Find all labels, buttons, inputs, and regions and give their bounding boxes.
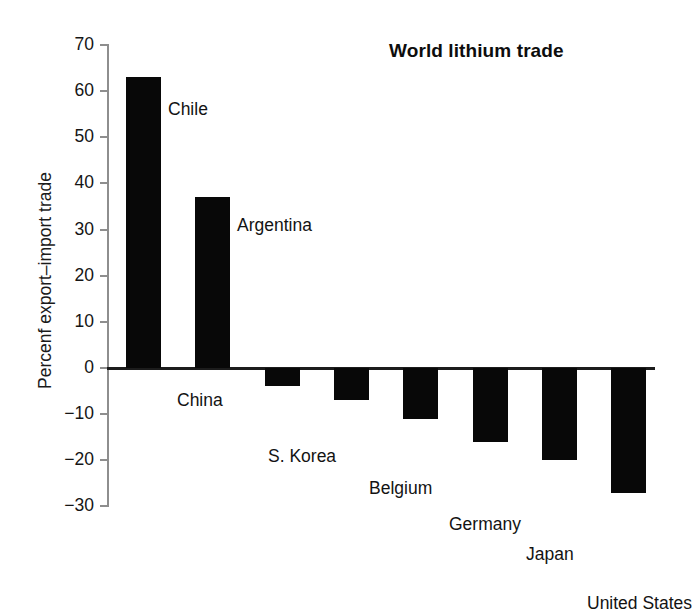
bar-united-states[interactable]	[611, 368, 646, 493]
bar-label-china: China	[177, 390, 223, 411]
bar-s-korea[interactable]	[334, 368, 369, 400]
y-tick-60	[100, 90, 109, 92]
y-tick-70	[100, 44, 109, 46]
y-tick-label-wrap: 30	[44, 221, 94, 239]
bar-japan[interactable]	[542, 368, 577, 460]
y-tick-label-wrap: −30	[44, 497, 94, 515]
y-tick-label: 20	[48, 267, 94, 285]
y-tick-label: −30	[48, 497, 94, 515]
y-tick-label-wrap: 10	[44, 313, 94, 331]
y-tick-label-wrap: −20	[44, 451, 94, 469]
y-tick-label: 50	[48, 128, 94, 146]
y-tick-label: 60	[48, 82, 94, 100]
y-tick-neg20	[100, 459, 109, 461]
y-tick-label: 70	[48, 36, 94, 54]
bar-label-chile: Chile	[168, 99, 208, 120]
y-tick-20	[100, 275, 109, 277]
y-tick-label-wrap: 20	[44, 267, 94, 285]
y-tick-label: 40	[48, 174, 94, 192]
bar-germany[interactable]	[473, 368, 508, 442]
y-tick-50	[100, 136, 109, 138]
bar-label-united-states: United States	[587, 593, 692, 613]
y-tick-10	[100, 321, 109, 323]
bar-argentina[interactable]	[195, 197, 230, 368]
bar-chile[interactable]	[126, 77, 161, 368]
bar-belgium[interactable]	[403, 368, 438, 419]
y-tick-label: 30	[48, 221, 94, 239]
bar-label-s-korea: S. Korea	[268, 446, 336, 467]
y-tick-label-wrap: 70	[44, 36, 94, 54]
y-tick-label: −10	[48, 405, 94, 423]
y-tick-label-wrap: 40	[44, 174, 94, 192]
y-tick-label: 10	[48, 313, 94, 331]
bar-label-japan: Japan	[526, 544, 574, 565]
y-tick-label-wrap: −10	[44, 405, 94, 423]
y-tick-label-wrap: 0	[44, 359, 94, 377]
bar-label-argentina: Argentina	[237, 215, 312, 236]
y-tick-label: −20	[48, 451, 94, 469]
bar-label-germany: Germany	[449, 514, 521, 535]
bar-china[interactable]	[265, 368, 300, 386]
y-tick-neg10	[100, 413, 109, 415]
y-tick-label: 0	[48, 359, 94, 377]
y-tick-label-wrap: 50	[44, 128, 94, 146]
y-tick-40	[100, 182, 109, 184]
y-tick-neg30	[100, 505, 109, 507]
y-tick-label-wrap: 60	[44, 82, 94, 100]
y-tick-30	[100, 229, 109, 231]
bar-label-belgium: Belgium	[369, 478, 432, 499]
